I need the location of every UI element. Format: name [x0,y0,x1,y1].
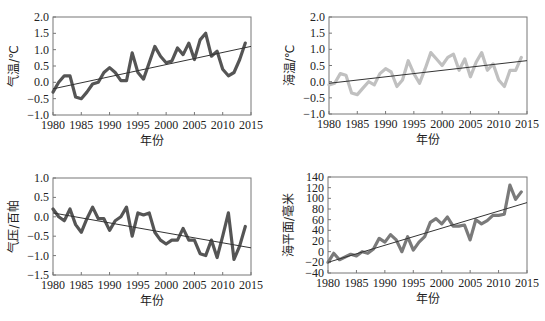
x-tick-label: 1985 [69,278,93,292]
x-tick-label: 1980 [316,276,340,290]
x-axis-label: 年份 [140,294,164,308]
y-tick-label: 0.5 [310,59,325,73]
y-tick-label: −1.0 [27,249,49,263]
y-tick-label: 0.5 [34,190,49,204]
x-tick-label: 1980 [317,117,341,131]
x-tick-label: 2005 [182,118,206,132]
x-tick-label: 1995 [126,278,150,292]
y-tick-label: 1.0 [310,42,325,56]
x-tick-label: 1990 [98,118,122,132]
y-axis-label: 海平面/毫米 [281,193,296,257]
x-axis-label: 年份 [416,292,440,306]
x-tick-label: 1990 [373,276,397,290]
x-tick-label: 1995 [401,276,425,290]
y-tick-label: 0.0 [34,210,49,224]
y-tick-label: 0.0 [310,75,325,89]
x-tick-label: 1985 [344,276,368,290]
y-axis-label: 气温/℃ [6,45,21,87]
data-series-line [329,53,521,95]
x-tick-label: 1980 [41,278,65,292]
x-tick-label: 2015 [239,118,263,132]
plot-frame [328,177,527,273]
y-tick-label: 1.0 [34,171,49,185]
x-tick-label: 2015 [239,278,263,292]
data-series-line [53,33,245,98]
x-axis-label: 年份 [140,134,164,148]
trend-line [328,203,527,263]
x-tick-label: 1985 [69,118,93,132]
chart-panel-air-temperature: 2.01.51.00.50.0−0.5−1.019801985199019952… [6,10,263,148]
y-tick-label: 1.5 [310,26,325,40]
x-tick-label: 1980 [41,118,65,132]
x-tick-label: 2015 [515,117,539,131]
x-tick-label: 1995 [402,117,426,131]
y-tick-label: −0.5 [303,91,325,105]
y-tick-label: 0.0 [34,75,49,89]
x-tick-label: 2005 [458,276,482,290]
x-tick-label: 2005 [182,278,206,292]
x-tick-label: 2005 [458,117,482,131]
y-axis-label: 海温/℃ [282,45,297,87]
data-series-line [53,207,245,259]
x-tick-label: 2000 [154,118,178,132]
x-tick-label: 1985 [345,117,369,131]
y-tick-label: 1.0 [34,43,49,57]
x-tick-label: 1990 [98,278,122,292]
x-axis-label: 年份 [416,133,440,147]
y-tick-label: 2.0 [34,10,49,24]
x-tick-label: 2000 [430,117,454,131]
x-tick-label: 2010 [487,117,511,131]
data-series-line [328,185,521,262]
x-tick-label: 2015 [515,276,539,290]
chart-panel-sea-level: 140120100806040200−20−401980198519901995… [281,170,539,306]
x-tick-label: 2010 [211,118,235,132]
y-tick-label: 0.5 [34,59,49,73]
climate-trend-figure: 2.01.51.00.50.0−0.5−1.019801985199019952… [0,0,545,321]
x-tick-label: 2000 [430,276,454,290]
x-tick-label: 2010 [487,276,511,290]
y-tick-label: 1.5 [34,26,49,40]
y-tick-label: −0.5 [27,229,49,243]
x-tick-label: 1990 [374,117,398,131]
x-tick-label: 1995 [126,118,150,132]
y-tick-label: 2.0 [310,10,325,24]
x-tick-label: 2010 [211,278,235,292]
y-tick-label: −0.5 [27,92,49,106]
chart-panel-air-pressure: 1.00.50.0−0.5−1.0−1.51980198519901995200… [6,171,263,308]
x-tick-label: 2000 [154,278,178,292]
chart-panel-sea-temperature: 2.01.51.00.50.0−0.5−1.019801985199019952… [282,10,539,147]
y-axis-label: 气压/百帕 [6,200,21,252]
